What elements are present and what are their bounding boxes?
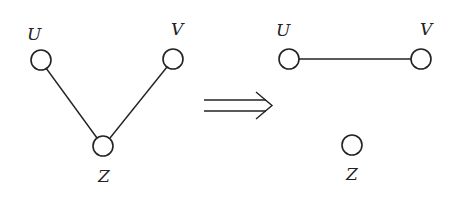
label-z-left: Z — [97, 166, 111, 186]
label-u-left: U — [27, 24, 42, 44]
graph-diagram: U V Z U V Z — [0, 0, 459, 204]
node-v-right — [411, 49, 431, 69]
node-u-right — [279, 49, 299, 69]
label-z-right: Z — [345, 164, 359, 184]
left-graph: U V Z — [27, 19, 185, 186]
implies-arrow-icon — [204, 92, 272, 119]
edge-v-z-left — [110, 67, 167, 138]
node-u-left — [31, 50, 51, 70]
node-z-left — [93, 136, 113, 156]
label-v-right: V — [420, 19, 434, 39]
node-z-right — [342, 135, 362, 155]
right-graph: U V Z — [276, 19, 434, 184]
edge-u-z-left — [46, 68, 97, 138]
label-v-left: V — [171, 19, 185, 39]
label-u-right: U — [276, 20, 291, 40]
node-v-left — [163, 49, 183, 69]
